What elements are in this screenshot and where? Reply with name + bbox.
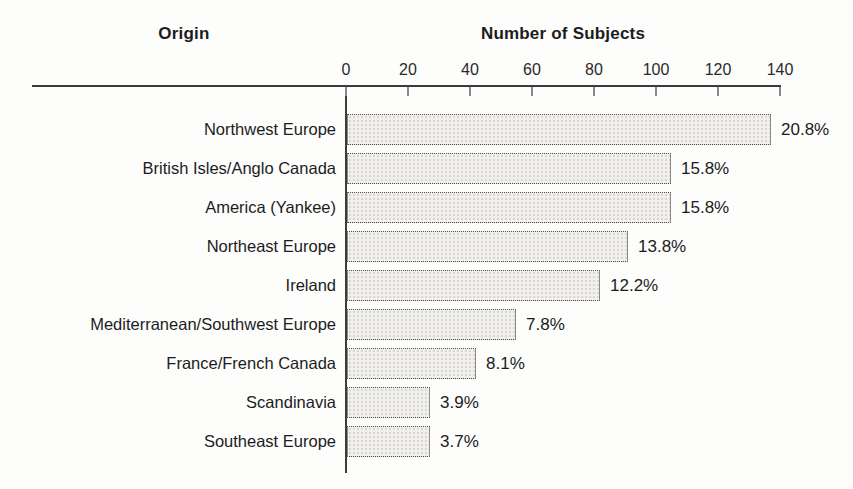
percent-label: 13.8% — [638, 237, 686, 257]
bar — [347, 114, 771, 145]
x-tick-label-120: 120 — [688, 61, 748, 79]
bar — [347, 231, 628, 262]
bar — [347, 309, 516, 340]
x-tick-mark-60 — [531, 87, 533, 96]
bar — [347, 387, 430, 418]
category-label: British Isles/Anglo Canada — [0, 159, 336, 178]
category-label: France/French Canada — [0, 354, 336, 373]
x-tick-label-0: 0 — [316, 61, 376, 79]
x-tick-label-140: 140 — [750, 61, 810, 79]
x-tick-label-40: 40 — [440, 61, 500, 79]
bar — [347, 153, 671, 184]
subjects-column-header: Number of Subjects — [346, 24, 780, 44]
x-tick-mark-40 — [469, 87, 471, 96]
x-tick-label-60: 60 — [502, 61, 562, 79]
percent-label: 8.1% — [486, 354, 525, 374]
x-tick-mark-100 — [655, 87, 657, 96]
origin-subjects-bar-chart: Origin Number of Subjects 02040608010012… — [0, 0, 853, 489]
category-label: Northwest Europe — [0, 120, 336, 139]
bar — [347, 270, 600, 301]
x-tick-mark-0 — [345, 87, 347, 96]
x-tick-mark-120 — [717, 87, 719, 96]
percent-label: 12.2% — [610, 276, 658, 296]
x-tick-label-100: 100 — [626, 61, 686, 79]
percent-label: 20.8% — [781, 120, 829, 140]
x-tick-mark-80 — [593, 87, 595, 96]
bar — [347, 426, 430, 457]
bar — [347, 192, 671, 223]
percent-label: 3.7% — [440, 432, 479, 452]
category-label: Ireland — [0, 276, 336, 295]
origin-column-header: Origin — [28, 24, 340, 44]
percent-label: 3.9% — [440, 393, 479, 413]
bar — [347, 348, 476, 379]
category-label: Scandinavia — [0, 393, 336, 412]
percent-label: 15.8% — [681, 159, 729, 179]
x-tick-mark-140 — [779, 87, 781, 96]
percent-label: 15.8% — [681, 198, 729, 218]
category-label: America (Yankee) — [0, 198, 336, 217]
category-label: Northeast Europe — [0, 237, 336, 256]
x-tick-mark-20 — [407, 87, 409, 96]
x-tick-label-80: 80 — [564, 61, 624, 79]
percent-label: 7.8% — [526, 315, 565, 335]
x-tick-label-20: 20 — [378, 61, 438, 79]
category-label: Mediterranean/Southwest Europe — [0, 315, 336, 334]
category-label: Southeast Europe — [0, 432, 336, 451]
